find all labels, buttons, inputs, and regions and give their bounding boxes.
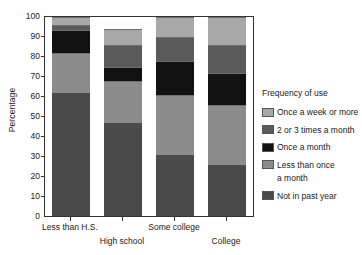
stacked-bar-chart: Percentage 0102030405060708090100 Less t… [0,0,362,255]
x-axis-tick-label: Less than H.S. [25,222,115,232]
legend-item[interactable]: Once a week or more [262,107,362,118]
bar-stack[interactable] [156,17,194,217]
legend-item[interactable]: Once a month [262,142,362,153]
y-axis-tick-label: 20 [0,172,40,180]
y-axis-tick-label: 30 [0,152,40,160]
bar-segment[interactable] [156,17,194,37]
bar-segment[interactable] [208,45,246,73]
bar-segment[interactable] [208,73,246,105]
x-axis-tick-mark [174,217,175,221]
x-axis-line [44,216,254,217]
y-axis-tick-label: 40 [0,132,40,140]
plot-area [44,16,254,217]
bar-stack[interactable] [52,17,90,217]
legend-swatch [262,108,274,117]
x-axis-tick-mark [226,217,227,221]
y-axis-tick-label: 80 [0,52,40,60]
bar-segment[interactable] [208,17,246,45]
legend-item-label: 2 or 3 times a month [277,125,354,136]
bar-stack[interactable] [208,17,246,217]
bar-segment[interactable] [104,81,142,123]
legend-swatch [262,191,274,200]
bar-segment[interactable] [52,93,90,217]
legend-item-label: Once a month [277,142,330,153]
bar-segment[interactable] [156,61,194,95]
x-axis-tick-label: Some college [129,222,219,232]
legend-swatch [262,143,274,152]
legend-item-label: Less than oncea month [277,160,335,184]
y-axis-tick-label: 90 [0,32,40,40]
bar-segment[interactable] [52,17,90,25]
bar-segment[interactable] [156,37,194,61]
legend-items: Once a week or more2 or 3 times a monthO… [262,107,362,201]
bar-segment[interactable] [104,45,142,67]
bar-segment[interactable] [156,155,194,217]
y-axis-tick-label: 10 [0,192,40,200]
legend-item[interactable]: 2 or 3 times a month [262,125,362,136]
legend-swatch [262,125,274,134]
y-axis-tick-label: 60 [0,92,40,100]
legend-swatch [262,160,274,169]
legend: Frequency of use Once a week or more2 or… [262,88,362,208]
bar-segment[interactable] [156,95,194,155]
bar-segment[interactable] [104,123,142,217]
y-axis-tick-label: 50 [0,112,40,120]
bar-segment[interactable] [208,105,246,165]
y-axis-tick-label: 0 [0,212,40,220]
bar-segment[interactable] [52,53,90,93]
bar-stack[interactable] [104,17,142,217]
legend-item[interactable]: Not in past year [262,191,362,202]
bar-segment[interactable] [104,29,142,45]
x-axis-tick-mark [122,217,123,221]
bar-segment[interactable] [52,25,90,30]
legend-item-label: Once a week or more [277,107,358,118]
legend-item-label-line2: a month [277,173,335,184]
x-axis-tick-mark [70,217,71,221]
x-axis-tick-label: High school [77,236,167,246]
legend-item[interactable]: Less than oncea month [262,160,362,184]
bar-segment[interactable] [52,30,90,53]
bar-segment[interactable] [104,67,142,81]
legend-title: Frequency of use [262,88,362,98]
y-axis-tick-label: 100 [0,12,40,20]
legend-item-label: Not in past year [277,191,337,202]
y-axis-tick-label: 70 [0,72,40,80]
bar-segment[interactable] [208,165,246,217]
x-axis-tick-label: College [181,236,271,246]
